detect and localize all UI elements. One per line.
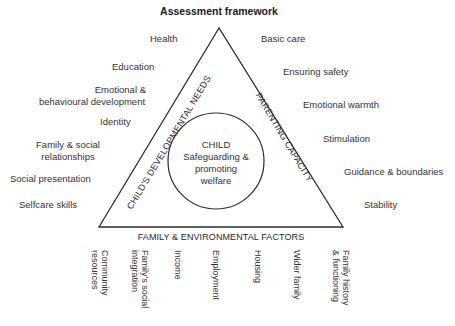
- need-identity: Identity: [100, 116, 131, 128]
- capacity-guidance-boundaries: Guidance & boundaries: [344, 166, 443, 178]
- child-subtitle-1: Safeguarding &: [176, 151, 256, 163]
- factor-integration-line1: Family's social: [140, 250, 150, 308]
- need-social-presentation: Social presentation: [10, 173, 91, 185]
- factor-history-line2: & functioning: [331, 250, 341, 302]
- need-education: Education: [112, 61, 154, 73]
- factor-employment: Employment: [211, 250, 221, 300]
- child-title: CHILD: [176, 139, 256, 151]
- factor-wider-family: Wider family: [292, 250, 302, 300]
- capacity-stimulation: Stimulation: [323, 133, 370, 145]
- factor-income: Income: [173, 250, 183, 280]
- need-emotional-line2: behavioural development: [36, 96, 148, 108]
- side-label-family-environmental: FAMILY & ENVIRONMENTAL FACTORS: [99, 232, 343, 242]
- factor-community-line2: resources: [90, 250, 100, 290]
- capacity-basic-care: Basic care: [261, 33, 305, 45]
- need-family-social: Family & social relationships: [22, 139, 114, 163]
- capacity-stability: Stability: [364, 199, 397, 211]
- capacity-emotional-warmth: Emotional warmth: [303, 99, 379, 111]
- child-center-label: CHILD Safeguarding & promoting welfare: [176, 139, 256, 187]
- child-subtitle-3: welfare: [176, 175, 256, 187]
- child-subtitle-2: promoting: [176, 163, 256, 175]
- need-emotional-behavioural: Emotional & behavioural development: [36, 84, 148, 108]
- need-emotional-line1: Emotional &: [36, 84, 148, 96]
- need-selfcare-skills: Selfcare skills: [19, 199, 77, 211]
- factor-community-line1: Community: [100, 250, 110, 296]
- factor-family-social-integration: Family's social integration: [130, 250, 150, 308]
- factor-housing: Housing: [253, 250, 263, 283]
- factor-integration-line2: integration: [130, 250, 140, 292]
- factor-family-history: Family history & functioning: [331, 250, 351, 306]
- capacity-ensuring-safety: Ensuring safety: [283, 66, 348, 78]
- factor-community-resources: Community resources: [90, 250, 110, 296]
- need-family-line2: relationships: [22, 151, 114, 163]
- need-family-line1: Family & social: [22, 139, 114, 151]
- factor-history-line1: Family history: [341, 250, 351, 306]
- need-health: Health: [150, 33, 177, 45]
